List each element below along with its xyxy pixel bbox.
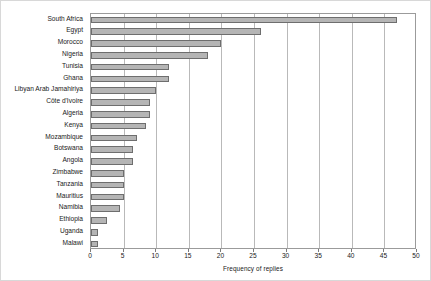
x-tick-label: 30 <box>282 253 289 260</box>
category-label: Namibia <box>1 204 86 211</box>
category-label: South Africa <box>1 16 86 23</box>
x-tick-label: 40 <box>347 253 354 260</box>
bar <box>91 182 124 189</box>
category-label: Libyan Arab Jamahiriya <box>1 86 86 93</box>
x-tick-label: 45 <box>380 253 387 260</box>
x-axis-title: Frequency of replies <box>90 265 416 272</box>
bar <box>91 158 133 165</box>
bar <box>91 111 150 118</box>
category-label: Botswana <box>1 145 86 152</box>
bar <box>91 170 124 177</box>
bar <box>91 28 261 35</box>
category-label: Kenya <box>1 122 86 129</box>
horizontal-bar-chart: South AfricaEgyptMoroccoNigeriaTunisiaGh… <box>1 1 431 281</box>
x-tick-label: 50 <box>412 253 419 260</box>
bar <box>91 76 169 83</box>
category-label: Zimbabwe <box>1 169 86 176</box>
category-label: Ethiopia <box>1 216 86 223</box>
x-tick-label: 10 <box>152 253 159 260</box>
x-tick-label: 20 <box>217 253 224 260</box>
bar <box>91 87 156 94</box>
category-label: Tunisia <box>1 63 86 70</box>
bar <box>91 40 221 47</box>
category-axis-labels: South AfricaEgyptMoroccoNigeriaTunisiaGh… <box>1 13 86 249</box>
bar <box>91 52 208 59</box>
category-label: Nigeria <box>1 51 86 58</box>
bar <box>91 194 124 201</box>
x-tick-label: 35 <box>315 253 322 260</box>
bar <box>91 123 146 130</box>
x-tick-label: 5 <box>121 253 125 260</box>
category-label: Angola <box>1 157 86 164</box>
x-tick-label: 25 <box>249 253 256 260</box>
category-label: Algeria <box>1 110 86 117</box>
bar <box>91 17 397 24</box>
bar <box>91 229 98 236</box>
bar <box>91 135 137 142</box>
category-label: Tanzania <box>1 181 86 188</box>
bar <box>91 205 120 212</box>
x-tick-label: 15 <box>184 253 191 260</box>
bar <box>91 64 169 71</box>
bar <box>91 99 150 106</box>
chart-page: South AfricaEgyptMoroccoNigeriaTunisiaGh… <box>0 0 431 281</box>
bar-series <box>91 14 415 248</box>
category-label: Morocco <box>1 39 86 46</box>
bar <box>91 146 133 153</box>
x-tick-label: 0 <box>88 253 92 260</box>
category-label: Mauritius <box>1 193 86 200</box>
category-label: Egypt <box>1 27 86 34</box>
category-label: Côte d'Ivoire <box>1 98 86 105</box>
category-label: Mozambique <box>1 134 86 141</box>
bar <box>91 217 107 224</box>
plot-area <box>90 13 416 249</box>
category-label: Malawi <box>1 240 86 247</box>
category-label: Uganda <box>1 228 86 235</box>
bar <box>91 241 98 248</box>
x-axis-tick-labels: 05101520253035404550 <box>90 253 416 263</box>
category-label: Ghana <box>1 75 86 82</box>
